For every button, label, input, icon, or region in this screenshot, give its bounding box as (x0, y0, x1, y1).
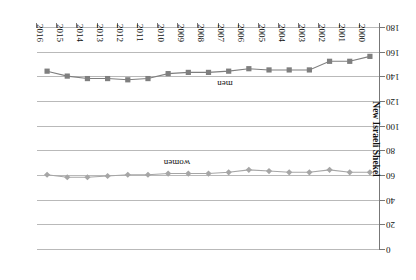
data-point-men (186, 70, 191, 75)
data-point-men (246, 66, 251, 71)
data-point-men (327, 59, 332, 64)
y-axis-tick-label: 40 (386, 196, 410, 205)
data-point-women (246, 167, 252, 173)
y-axis-tick-label: 80 (386, 146, 410, 155)
y-axis-tick-label: 20 (386, 220, 410, 229)
y-axis-tick-label: 100 (386, 122, 410, 131)
y-axis-tick-label: 160 (386, 48, 410, 57)
data-point-women (205, 170, 211, 176)
y-axis-tick-label: 120 (386, 97, 410, 106)
series-line-men (47, 56, 370, 79)
data-point-men (367, 54, 372, 59)
data-point-women (185, 170, 191, 176)
data-point-men (166, 71, 171, 76)
y-axis-tick (380, 27, 385, 28)
series-label-men: men (217, 79, 233, 89)
plot-area: 020406080100120140160180 200020012002200… (37, 28, 380, 250)
data-point-men (307, 67, 312, 72)
y-axis-tick-label: 60 (386, 171, 410, 180)
series-layer (37, 28, 380, 250)
data-point-men (85, 76, 90, 81)
data-point-men (145, 76, 150, 81)
data-point-women (165, 170, 171, 176)
data-point-men (105, 76, 110, 81)
data-point-women (125, 172, 131, 178)
y-axis-tick (380, 249, 385, 250)
data-point-women (64, 174, 70, 180)
y-axis-tick-label: 180 (386, 23, 410, 32)
data-point-men (206, 70, 211, 75)
data-point-men (44, 69, 49, 74)
data-point-women (44, 172, 50, 178)
data-point-women (306, 169, 312, 175)
y-axis-tick (380, 200, 385, 201)
y-axis-tick (380, 224, 385, 225)
data-point-women (286, 169, 292, 175)
data-point-women (145, 172, 151, 178)
y-axis-tick (380, 76, 385, 77)
data-point-men (65, 74, 70, 79)
chart-figure: 020406080100120140160180 200020012002200… (0, 0, 416, 280)
data-point-men (266, 67, 271, 72)
data-point-men (125, 77, 130, 82)
data-point-women (326, 167, 332, 173)
y-axis-title: New Israeli Shekel (371, 101, 381, 176)
data-point-men (347, 59, 352, 64)
data-point-women (226, 169, 232, 175)
data-point-men (226, 69, 231, 74)
data-point-women (347, 169, 353, 175)
y-axis-tick-label: 140 (386, 72, 410, 81)
y-axis-tick (380, 52, 385, 53)
data-point-women (84, 174, 90, 180)
data-point-women (266, 168, 272, 174)
data-point-women (105, 173, 111, 179)
data-point-men (287, 67, 292, 72)
series-label-women: women (164, 158, 191, 168)
y-axis-tick-label: 0 (386, 245, 410, 254)
